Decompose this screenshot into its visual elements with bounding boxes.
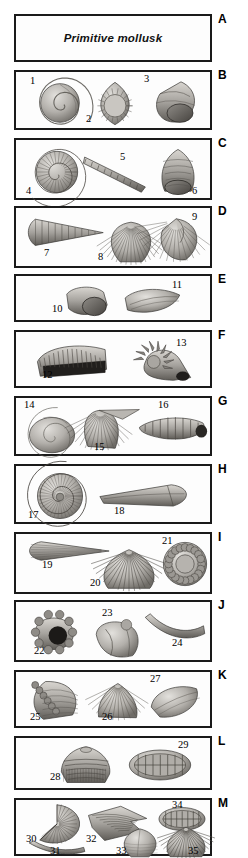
specimen-number-label: 18 — [114, 506, 125, 517]
specimen-number-label: 9 — [192, 212, 197, 223]
specimen-number-label: 11 — [172, 280, 182, 291]
specimen-27-smooth-oval-bivalve — [148, 682, 202, 720]
specimen-28-banded-turban-shell — [58, 746, 114, 784]
specimen-23-irregular-lumpy-shell — [90, 616, 142, 660]
specimen-11-elongate-wedge-shell — [124, 286, 182, 316]
specimen-number-label: 8 — [98, 252, 103, 263]
specimen-number-label: 31 — [50, 846, 61, 857]
specimen-number-label: 12 — [42, 370, 53, 381]
specimen-9-asymmetric-bivalve-umbo — [156, 216, 204, 262]
specimen-number-label: 34 — [172, 800, 183, 811]
panel-d: 7 8 — [14, 206, 212, 268]
specimen-17-tight-coiled-ammonite — [34, 472, 86, 520]
specimen-number-label: 28 — [50, 772, 61, 783]
specimen-number-label: 35 — [188, 846, 199, 857]
panel-l: 28 29 — [14, 736, 212, 790]
specimen-21-rosette-coiled-shell — [162, 540, 208, 588]
panel-f: 12 13 — [14, 330, 212, 388]
specimen-15-winged-brachiopod — [78, 406, 140, 450]
specimen-number-label: 1 — [30, 76, 35, 87]
specimen-29-ribbed-oval-chiton — [128, 748, 192, 782]
specimen-5-segmented-rod — [82, 150, 148, 194]
specimen-14-low-spire-coiled-shell — [28, 412, 76, 454]
specimen-number-label: 22 — [34, 646, 45, 657]
specimen-19-pointed-blade-shell — [24, 540, 110, 562]
specimen-number-label: 10 — [52, 304, 63, 315]
panel-letter-e: E — [218, 273, 226, 285]
specimen-number-label: 24 — [172, 638, 183, 649]
specimen-number-label: 3 — [144, 74, 149, 85]
panel-letter-c: C — [218, 137, 227, 149]
specimen-4-planispiral-ammonite — [34, 150, 80, 194]
panel-i: 19 20 — [14, 532, 212, 594]
specimen-2-teardrop-shell-aperture — [94, 81, 136, 126]
specimen-number-label: 32 — [86, 834, 97, 845]
specimen-number-label: 5 — [120, 152, 125, 163]
panel-letter-j: J — [218, 599, 225, 611]
specimen-35-fan-scallop — [164, 826, 208, 858]
specimen-number-label: 6 — [192, 186, 197, 197]
panel-b: 1 2 — [14, 70, 212, 130]
specimen-number-label: 20 — [90, 578, 101, 589]
specimen-1-coiled-gastropod-spiral — [38, 82, 82, 124]
panel-letter-b: B — [218, 69, 227, 81]
panel-c: 4 5 — [14, 138, 212, 200]
specimen-7-high-spired-cone — [26, 216, 104, 248]
panel-letter-k: K — [218, 669, 227, 681]
panel-letter-f: F — [218, 329, 225, 341]
panel-k: 25 26 — [14, 670, 212, 728]
specimen-number-label: 21 — [162, 536, 173, 547]
specimen-number-label: 2 — [86, 114, 91, 125]
panel-a: Primitive mollusk — [14, 14, 212, 62]
specimen-number-label: 16 — [158, 400, 169, 411]
panel-e: 10 11 — [14, 274, 212, 322]
specimen-18-elongate-blade-shell — [98, 482, 192, 510]
panel-j: 22 23 — [14, 600, 212, 662]
figure-title: Primitive mollusk — [16, 32, 210, 44]
specimen-number-label: 23 — [102, 608, 113, 619]
specimen-number-label: 33 — [116, 846, 127, 857]
specimen-26-triangular-bivalve — [94, 682, 140, 720]
specimen-number-label: 17 — [28, 510, 39, 521]
specimen-number-label: 19 — [42, 560, 53, 571]
specimen-number-label: 7 — [44, 248, 49, 259]
specimen-number-label: 27 — [150, 674, 161, 685]
panel-letter-l: L — [218, 735, 225, 747]
panel-letter-i: I — [218, 531, 221, 543]
figure-plate: Primitive molluskA 1 — [0, 0, 248, 858]
specimen-20-fan-scallop — [100, 548, 158, 590]
panel-letter-h: H — [218, 463, 227, 475]
specimen-number-label: 15 — [94, 442, 105, 453]
specimen-10-cap-shell-opening — [64, 284, 110, 318]
specimen-number-label: 25 — [30, 712, 41, 723]
panel-letter-g: G — [218, 395, 227, 407]
panel-h: 17 18 — [14, 464, 212, 524]
specimen-number-label: 26 — [102, 712, 113, 723]
specimen-number-label: 14 — [24, 400, 35, 411]
specimen-3-turban-gastropod — [150, 80, 200, 126]
panel-g: 14 15 — [14, 396, 212, 456]
panel-m: 30 31 32 — [14, 798, 212, 856]
panel-letter-m: M — [218, 797, 228, 809]
specimen-number-label: 13 — [176, 338, 187, 349]
specimen-number-label: 29 — [178, 740, 189, 751]
panel-letter-d: D — [218, 205, 227, 217]
specimen-number-label: 4 — [26, 186, 31, 197]
panel-letter-a: A — [218, 13, 227, 25]
specimen-30-radial-disc-shell — [30, 804, 84, 844]
specimen-16-turreted-spiral-shell — [138, 412, 210, 444]
